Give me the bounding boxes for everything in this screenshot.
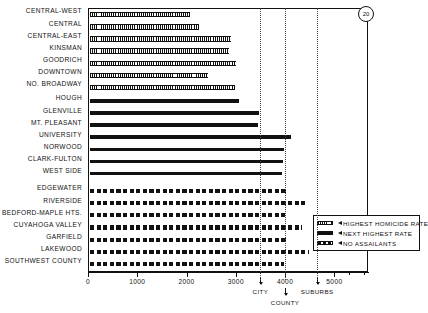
down-arrow-icon	[285, 288, 286, 295]
left-arrow-icon	[333, 241, 342, 245]
x-tick-minor	[349, 272, 350, 275]
x-tick	[88, 272, 89, 277]
bar	[90, 201, 308, 205]
legend-label: HIGHEST HOMICIDE RATE	[343, 220, 428, 227]
category-label: NO. BROADWAY	[27, 80, 83, 88]
x-tick	[236, 272, 237, 277]
x-tick-label: 1000	[129, 278, 145, 285]
x-tick-label: 5000	[326, 278, 342, 285]
annotation-label-city: CITY	[253, 288, 269, 295]
bar	[90, 73, 208, 78]
legend-label: NO ASSAILANTS	[343, 240, 396, 247]
reference-line-county	[285, 8, 286, 280]
x-tick-label: 2000	[178, 278, 194, 285]
legend-label: NEXT HIGHEST RATE	[343, 230, 412, 237]
category-label: DOWNTOWN	[38, 68, 82, 76]
legend-item-highest-homicide-rate: HIGHEST HOMICIDE RATE	[317, 218, 417, 228]
x-tick-label: 3000	[228, 278, 244, 285]
category-label: EDGEWATER	[37, 184, 82, 192]
legend-item-no-assailants: NO ASSAILANTS	[317, 238, 417, 248]
bar	[90, 225, 303, 229]
bar	[90, 99, 239, 103]
annotation-label-county: COUNTY	[271, 299, 300, 306]
bar	[90, 262, 285, 266]
reference-line-city	[260, 8, 261, 280]
category-label: CUYAHOGA VALLEY	[14, 221, 82, 229]
bar	[90, 61, 237, 66]
bar	[90, 111, 260, 115]
bar	[90, 213, 285, 217]
category-label: CENTRAL-EAST	[28, 32, 82, 40]
x-tick-minor	[364, 272, 365, 275]
category-label: NORWOOD	[44, 143, 82, 151]
category-label: LAKEWOOD	[41, 245, 82, 253]
category-label: CENTRAL-WEST	[26, 7, 82, 15]
x-tick	[137, 272, 138, 277]
bar	[90, 12, 191, 17]
category-label: MT. PLEASANT	[31, 119, 82, 127]
x-tick	[187, 272, 188, 277]
x-axis-line	[88, 272, 369, 273]
category-label-column: CENTRAL-WESTCENTRALCENTRAL-EASTKINSMANGO…	[0, 8, 86, 272]
x-tick-label: 0	[86, 278, 90, 285]
category-label: KINSMAN	[50, 44, 83, 52]
category-label: GLENVILLE	[43, 107, 82, 115]
solid-swatch-icon	[317, 231, 333, 235]
bar	[90, 85, 236, 90]
category-label: WEST SIDE	[43, 167, 82, 175]
category-label: HOUGH	[56, 94, 82, 102]
category-label: GARFIELD	[46, 233, 82, 241]
category-label: SOUTHWEST COUNTY	[5, 257, 82, 265]
figure-number-badge: 20	[358, 6, 374, 22]
bar	[90, 189, 286, 193]
category-label: BEDFORD-MAPLE HTS.	[2, 209, 82, 217]
bar	[90, 48, 230, 53]
category-label: GOODRICH	[43, 56, 82, 64]
category-label: UNIVERSITY	[39, 131, 82, 139]
bar	[90, 238, 288, 242]
bar	[90, 24, 199, 29]
left-arrow-icon	[333, 221, 342, 225]
legend-item-next-highest-rate: NEXT HIGHEST RATE	[317, 228, 417, 238]
category-label: RIVERSIDE	[43, 197, 82, 205]
category-label: CENTRAL	[49, 20, 82, 28]
reference-line-suburbs	[317, 8, 318, 280]
fine-hatch-swatch-icon	[317, 221, 333, 225]
category-label: CLARK-FULTON	[28, 155, 82, 163]
bar	[90, 160, 283, 164]
x-tick	[334, 272, 335, 277]
bar	[90, 250, 309, 254]
bar	[90, 36, 232, 41]
bar	[90, 148, 285, 152]
chart-legend: HIGHEST HOMICIDE RATE NEXT HIGHEST RATE …	[313, 215, 420, 251]
dashed-swatch-icon	[317, 241, 333, 245]
annotation-label-suburbs: SUBURBS	[301, 288, 334, 295]
bar	[90, 172, 282, 176]
left-arrow-icon	[333, 231, 342, 235]
bar	[90, 123, 259, 127]
